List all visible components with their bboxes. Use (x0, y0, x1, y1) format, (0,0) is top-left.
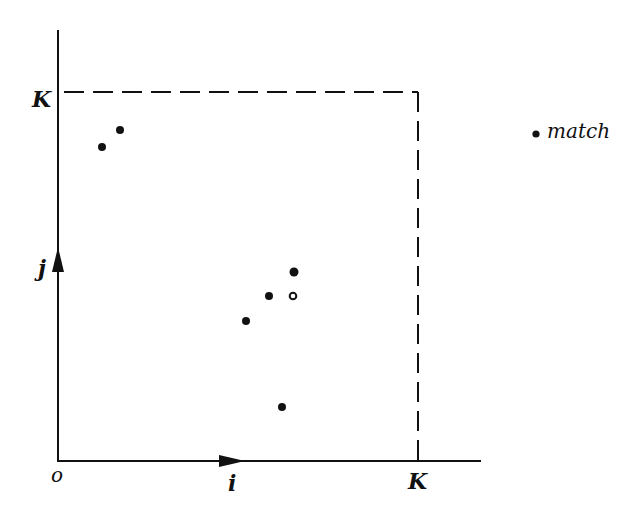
diagram-svg (0, 0, 637, 522)
match-point-icon (242, 317, 250, 325)
open-point-icon (290, 293, 297, 300)
x-bound-label: K (408, 470, 427, 492)
y-axis-label: j (38, 257, 46, 279)
match-point-icon (116, 126, 124, 134)
origin-label: o (51, 465, 63, 485)
match-point-icon (98, 143, 106, 151)
x-axis-label: i (228, 472, 236, 494)
match-point-icon (290, 268, 299, 277)
diagram-canvas: K j o i K match (0, 0, 637, 522)
legend-label-match: match (547, 121, 610, 141)
match-point-icon (265, 292, 273, 300)
match-point-icon (278, 403, 286, 411)
y-bound-label: K (32, 88, 51, 110)
legend-dot-icon (532, 130, 539, 137)
match-points (98, 126, 299, 411)
y-axis-arrow-icon (52, 247, 64, 272)
x-axis-arrow-icon (219, 455, 245, 467)
